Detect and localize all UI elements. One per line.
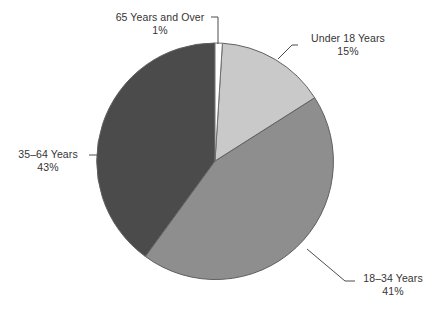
pie-label-18-34-years: 18–34 Years 41% [356, 272, 430, 298]
pie-label-65-years-and-over-percent: 1% [108, 24, 212, 37]
pie-label-65-years-and-over: 65 Years and Over 1% [108, 11, 212, 37]
pie-label-35-64-years-name: 35–64 Years [8, 148, 88, 161]
pie-label-65-years-and-over-name: 65 Years and Over [108, 11, 212, 24]
pie-chart-figure: 65 Years and Over 1% Under 18 Years 15% … [0, 0, 434, 311]
pie-label-35-64-years: 35–64 Years 43% [8, 148, 88, 174]
pie-label-under-18-years-name: Under 18 Years [300, 32, 396, 45]
leader-line-18-34-years [307, 249, 355, 281]
pie-label-18-34-years-name: 18–34 Years [356, 272, 430, 285]
pie-label-18-34-years-percent: 41% [356, 285, 430, 298]
leader-line-under-18-years [278, 45, 298, 59]
pie-label-under-18-years: Under 18 Years 15% [300, 32, 396, 58]
leader-line-65-years-and-over [211, 17, 218, 44]
pie-label-35-64-years-percent: 43% [8, 161, 88, 174]
pie-label-under-18-years-percent: 15% [300, 45, 396, 58]
